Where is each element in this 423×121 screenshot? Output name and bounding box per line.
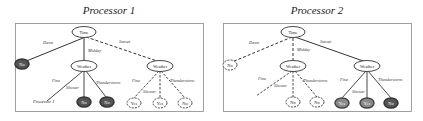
node-weather-label: Weather <box>360 64 375 69</box>
edge-label-dawn: Dawn <box>42 40 53 45</box>
node-weather-label: Weather <box>286 64 301 69</box>
edge-label-midday: Midday <box>87 48 101 53</box>
edge-label-dawn: Dawn <box>248 40 259 45</box>
leaf-label: No <box>388 101 393 106</box>
edge-label-sunset: Sunset <box>320 39 332 44</box>
leaf-label: No <box>182 101 187 106</box>
leaf-label: No <box>314 100 319 105</box>
edge-label-thunderstorm: Thunderstorm <box>96 80 120 85</box>
decision-tree-diagram: Time No Weather Weather No No Yes Yes No… <box>0 0 423 121</box>
edge-label-midday: Midday <box>296 47 310 52</box>
edge-label-shower: Shower <box>352 89 365 94</box>
edge-label-shower: Shower <box>66 85 79 90</box>
edge-thunderstorm <box>295 71 317 97</box>
node-time-label: Time <box>289 30 298 35</box>
edge-label-fine: Fine <box>339 77 348 82</box>
panel-2: Time No Weather Weather No No Yes Yes No… <box>223 24 412 112</box>
leaf-label: Yes <box>131 101 138 106</box>
edge-thunderstorm <box>368 71 391 98</box>
edge-label-thunderstorm: Thunderstorm <box>303 78 327 83</box>
node-time-label: Time <box>80 30 89 35</box>
leaf-label: No <box>81 100 86 105</box>
panel-1: Time No Weather Weather No No Yes Yes No… <box>15 24 204 112</box>
edge-label-shower: Shower <box>143 89 156 94</box>
node-weather-label: Weather <box>77 64 92 69</box>
node-weather-label: Weather <box>153 64 168 69</box>
leaf-label: Yes <box>364 101 371 106</box>
edge-label-fine: Fine <box>131 78 140 83</box>
edge-label-thunderstorm: Thunderstorm <box>170 78 194 83</box>
leaf-label: Yes <box>157 101 164 106</box>
edge-label-sunset: Sunset <box>119 39 131 44</box>
edge-thunderstorm <box>161 71 185 98</box>
edge-dawn <box>232 37 292 62</box>
leaf-dawn-label: No <box>19 62 24 67</box>
leaf-processor-1-label: Processor 1 <box>32 99 54 104</box>
edge-label-fine: Fine <box>51 78 60 83</box>
leaf-dawn-label: No <box>227 63 232 68</box>
leaf-label: Yes <box>339 101 346 106</box>
edge-label-shower: Shower <box>274 83 287 88</box>
leaf-label: No <box>290 100 295 105</box>
edge-label-thunderstorm: Thunderstorm <box>378 77 402 82</box>
leaf-label: No <box>104 100 109 105</box>
edge-label-fine: Fine <box>257 76 266 81</box>
edge-dawn <box>24 38 83 62</box>
